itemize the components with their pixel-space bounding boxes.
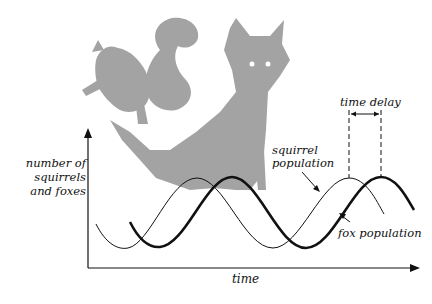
y-axis-label-line: number of bbox=[6, 156, 86, 170]
time-delay-arrow-left-icon bbox=[351, 112, 356, 117]
y-axis-arrow-icon bbox=[84, 128, 92, 138]
y-axis-label-line: and foxes bbox=[6, 184, 86, 198]
time-delay-arrow-right-icon bbox=[374, 112, 379, 117]
y-axis-label-line: squirrels bbox=[6, 170, 86, 184]
squirrel-population-label: squirrel population bbox=[272, 144, 334, 170]
y-axis-label: number of squirrels and foxes bbox=[6, 156, 86, 198]
time-delay-label: time delay bbox=[340, 95, 401, 109]
x-axis-arrow-icon bbox=[410, 264, 420, 272]
predator-prey-diagram bbox=[0, 0, 432, 304]
x-axis-label: time bbox=[232, 272, 259, 286]
fox-population-label: fox population bbox=[338, 226, 422, 240]
squirrel-illustration bbox=[82, 18, 198, 124]
squirrel-label-line: population bbox=[272, 157, 334, 170]
